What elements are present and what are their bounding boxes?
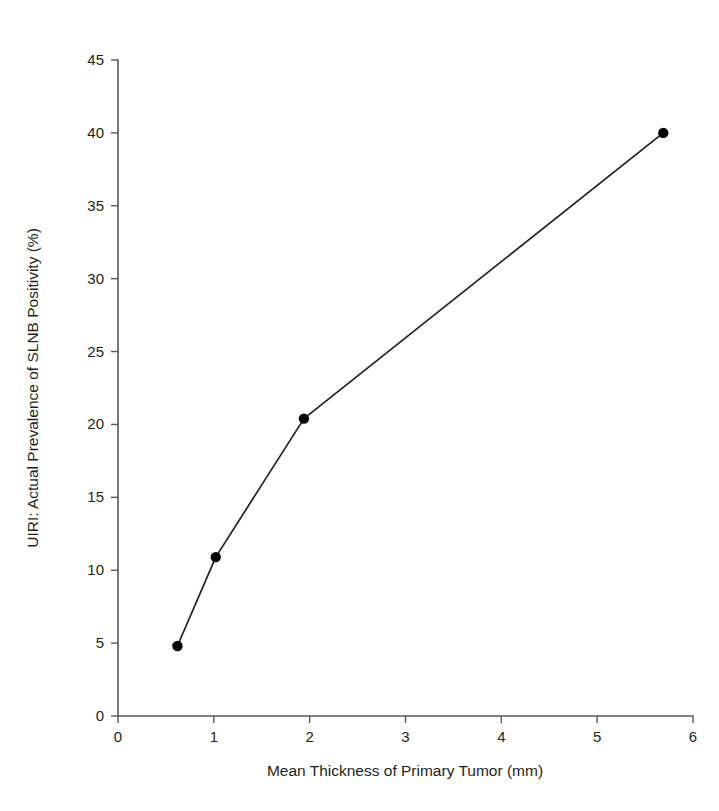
y-axis-tick-labels: 051015202530354045 bbox=[87, 51, 104, 724]
y-tick-label-5: 5 bbox=[96, 634, 104, 651]
y-tick-label-0: 0 bbox=[96, 707, 104, 724]
x-tick-label-1: 1 bbox=[210, 728, 218, 745]
data-point-2[interactable] bbox=[211, 552, 221, 562]
x-axis-group: 0123456 bbox=[114, 716, 697, 745]
y-tick-label-30: 30 bbox=[87, 270, 104, 287]
x-axis-ticks bbox=[118, 716, 693, 723]
y-tick-label-40: 40 bbox=[87, 124, 104, 141]
x-tick-label-2: 2 bbox=[305, 728, 313, 745]
x-axis-tick-labels: 0123456 bbox=[114, 728, 697, 745]
y-tick-label-25: 25 bbox=[87, 343, 104, 360]
x-tick-label-3: 3 bbox=[401, 728, 409, 745]
chart-figure: 051015202530354045 0123456 Mean Thicknes… bbox=[0, 0, 719, 811]
data-point-1[interactable] bbox=[172, 641, 182, 651]
y-tick-label-15: 15 bbox=[87, 488, 104, 505]
series-markers bbox=[172, 128, 668, 652]
y-tick-label-45: 45 bbox=[87, 51, 104, 68]
x-tick-label-0: 0 bbox=[114, 728, 122, 745]
series-line-path bbox=[177, 133, 663, 646]
data-point-4[interactable] bbox=[658, 128, 668, 138]
y-tick-label-20: 20 bbox=[87, 415, 104, 432]
line-chart-canvas: 051015202530354045 0123456 Mean Thicknes… bbox=[0, 0, 719, 811]
x-tick-label-5: 5 bbox=[593, 728, 601, 745]
data-point-3[interactable] bbox=[299, 413, 309, 423]
x-tick-label-4: 4 bbox=[497, 728, 505, 745]
y-axis-title: UIRI: Actual Prevalence of SLNB Positivi… bbox=[24, 228, 41, 548]
x-tick-label-6: 6 bbox=[689, 728, 697, 745]
y-tick-label-10: 10 bbox=[87, 561, 104, 578]
y-axis-group: 051015202530354045 bbox=[87, 51, 118, 724]
y-axis-ticks bbox=[111, 60, 118, 716]
x-axis-title: Mean Thickness of Primary Tumor (mm) bbox=[267, 762, 543, 779]
y-tick-label-35: 35 bbox=[87, 197, 104, 214]
data-series-group bbox=[172, 128, 668, 652]
